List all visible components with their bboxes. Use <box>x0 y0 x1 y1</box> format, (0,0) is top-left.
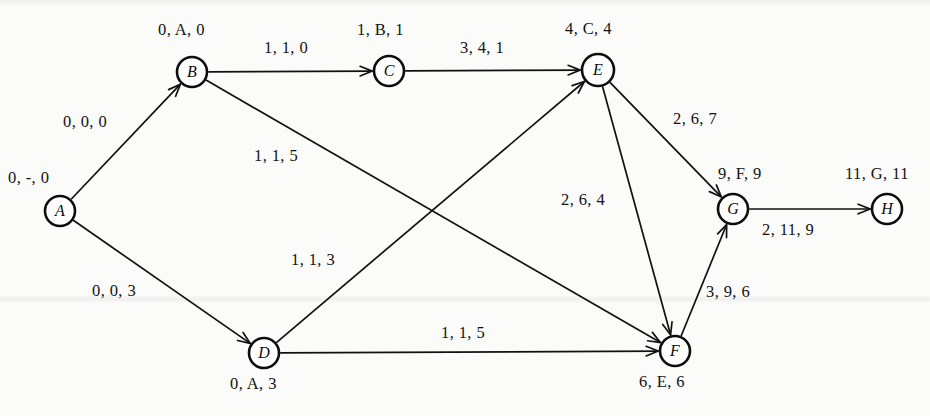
edge-label-c-e: 3, 4, 1 <box>460 40 504 57</box>
node-label-d: 0, A, 3 <box>230 376 277 393</box>
node-letter-g: G <box>727 200 739 217</box>
node-label-e: 4, C, 4 <box>565 21 612 38</box>
edge-label-e-f: 2, 6, 4 <box>561 192 605 209</box>
node-letter-f: F <box>669 342 680 359</box>
node-label-b: 0, A, 0 <box>158 22 205 39</box>
edge-label-f-g: 3, 9, 6 <box>706 284 750 301</box>
node-letter-d: D <box>257 344 270 361</box>
edge-label-a-d: 0, 0, 3 <box>92 283 136 300</box>
edge-e-f <box>603 87 672 335</box>
node-g[interactable]: G <box>718 194 748 224</box>
node-c[interactable]: C <box>374 56 404 86</box>
node-letter-h: H <box>880 200 894 217</box>
edge-label-b-c: 1, 1, 0 <box>264 40 308 57</box>
edge-b-c <box>208 66 372 76</box>
edge-e-g <box>610 82 721 197</box>
nodes-layer: ABCDEFGH <box>45 54 902 368</box>
edge-label-e-g: 2, 6, 7 <box>673 111 717 128</box>
edge-f-g <box>681 225 727 336</box>
node-h[interactable]: H <box>872 194 902 224</box>
node-f[interactable]: F <box>660 336 690 366</box>
edges-layer <box>71 65 870 356</box>
edge-d-e <box>276 82 584 343</box>
edge-g-h <box>749 204 870 214</box>
node-letter-c: C <box>384 62 395 79</box>
node-label-c: 1, B, 1 <box>357 22 404 39</box>
graph-canvas: ABCDEFGH <box>0 0 930 416</box>
node-label-a: 0, -, 0 <box>8 170 49 187</box>
node-e[interactable]: E <box>582 54 614 86</box>
edge-d-f <box>280 346 658 356</box>
node-b[interactable]: B <box>177 57 207 87</box>
edge-label-d-e: 1, 1, 3 <box>291 252 335 269</box>
node-d[interactable]: D <box>249 338 279 368</box>
edge-a-b <box>71 84 180 199</box>
edge-label-d-f: 1, 1, 5 <box>441 325 485 342</box>
edge-label-g-h: 2, 11, 9 <box>762 222 814 239</box>
node-label-g: 9, F, 9 <box>718 166 762 183</box>
edge-label-b-f: 1, 1, 5 <box>254 148 298 165</box>
edge-c-e <box>405 65 580 75</box>
edge-b-f <box>206 80 660 342</box>
node-a[interactable]: A <box>45 196 75 226</box>
node-label-h: 11, G, 11 <box>845 166 909 183</box>
node-letter-e: E <box>592 61 603 78</box>
graph-figure: ABCDEFGH 0, 0, 00, 0, 31, 1, 01, 1, 53, … <box>0 0 930 416</box>
node-label-f: 6, E, 6 <box>639 374 685 391</box>
node-letter-b: B <box>187 63 197 80</box>
node-letter-a: A <box>54 202 65 219</box>
edge-label-a-b: 0, 0, 0 <box>63 114 107 131</box>
